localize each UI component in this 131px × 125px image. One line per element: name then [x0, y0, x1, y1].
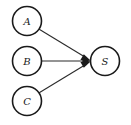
node-s-label: S — [102, 56, 109, 67]
diagram-canvas: A B C S — [0, 0, 131, 125]
graph-svg: A B C S — [0, 0, 131, 125]
node-b-label: B — [22, 56, 30, 67]
edge-a-to-s-line — [39, 29, 84, 57]
edge-c-to-s-line — [39, 65, 84, 93]
node-a[interactable]: A — [13, 7, 42, 36]
edge-c-to-s[interactable] — [39, 62, 90, 93]
node-a-label: A — [22, 16, 30, 27]
node-s[interactable]: S — [91, 47, 120, 76]
node-c-label: C — [23, 96, 31, 107]
node-c[interactable]: C — [13, 87, 42, 116]
edge-a-to-s[interactable] — [39, 29, 90, 60]
edge-group — [39, 29, 90, 93]
node-b[interactable]: B — [13, 47, 42, 76]
